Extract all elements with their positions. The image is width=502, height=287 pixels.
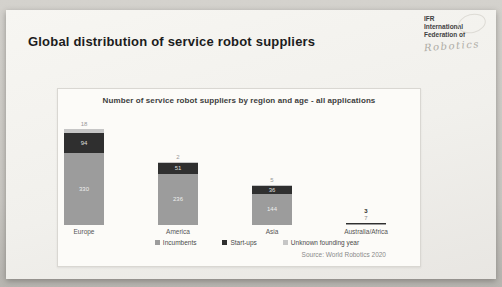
bar-value-incumbents-asia: 144 — [267, 206, 277, 212]
scanned-page: Global distribution of service robot sup… — [0, 0, 502, 287]
source-note: Source: World Robotics 2020 — [58, 251, 420, 258]
legend-item-start-ups: Start-ups — [222, 239, 256, 246]
ifr-logo: IFR International Federation of Robotics — [424, 15, 486, 51]
bar-value-start-ups-europe: 94 — [81, 140, 88, 146]
bar-europe: 94330 — [64, 129, 104, 225]
bar-value-incumbents-america: 236 — [173, 196, 183, 202]
x-label-asia: Asia — [225, 228, 319, 235]
bar-segment-incumbents-europe: 330 — [64, 153, 104, 225]
bar-segment-start-ups-america: 51 — [158, 163, 198, 174]
plot-column-europe: 1894330 — [37, 121, 131, 225]
bar-america: 51236 — [158, 162, 198, 225]
slide: Global distribution of service robot sup… — [6, 10, 496, 279]
page-title: Global distribution of service robot sup… — [28, 34, 315, 49]
bar-value-unknown-founding-year-america: 2 — [176, 154, 179, 161]
legend-label-start-ups: Start-ups — [230, 239, 256, 246]
above-labels-america: 2 — [176, 154, 179, 161]
chart-title: Number of service robot suppliers by reg… — [58, 96, 420, 105]
above-labels-europe: 18 — [81, 121, 88, 128]
legend-swatch-incumbents — [155, 240, 160, 245]
legend-label-incumbents: Incumbents — [163, 239, 197, 246]
bar-segment-start-ups-europe: 94 — [64, 133, 104, 153]
bar-value-incumbents-australia-africa: 7 — [364, 215, 367, 222]
bar-segment-start-ups-asia: 36 — [252, 186, 292, 194]
bar-value-start-ups-america: 51 — [175, 165, 182, 171]
x-axis-labels: EuropeAmericaAsiaAustralia/Africa — [37, 228, 413, 235]
chart-legend: IncumbentsStart-upsUnknown founding year — [58, 239, 420, 246]
legend-swatch-unknown-founding-year — [283, 240, 288, 245]
logo-script-robotics: Robotics — [424, 38, 487, 53]
bar-value-start-ups-asia: 36 — [269, 187, 276, 193]
x-label-europe: Europe — [37, 228, 131, 235]
bar-segment-incumbents-america: 236 — [158, 174, 198, 225]
plot-area: 189433025123653614437 — [37, 107, 413, 225]
chart-panel: Number of service robot suppliers by reg… — [57, 88, 421, 267]
plot-column-australia-africa: 37 — [319, 208, 413, 225]
bar-value-unknown-founding-year-asia: 5 — [270, 177, 273, 184]
x-label-australia-africa: Australia/Africa — [319, 228, 413, 235]
plot-column-asia: 536144 — [225, 177, 319, 225]
plot-column-america: 251236 — [131, 154, 225, 225]
legend-swatch-start-ups — [222, 240, 227, 245]
legend-item-unknown-founding-year: Unknown founding year — [283, 239, 359, 246]
bar-value-unknown-founding-year-europe: 18 — [81, 121, 88, 128]
bar-segment-incumbents-australia-africa — [346, 224, 386, 226]
bar-asia: 36144 — [252, 185, 292, 225]
bar-value-start-ups-australia-africa: 3 — [364, 208, 367, 215]
bar-australia-africa — [346, 223, 386, 225]
above-labels-australia-africa: 37 — [364, 208, 367, 222]
above-labels-asia: 5 — [270, 177, 273, 184]
bar-segment-incumbents-asia: 144 — [252, 194, 292, 225]
legend-item-incumbents: Incumbents — [155, 239, 197, 246]
bar-value-incumbents-europe: 330 — [79, 186, 89, 192]
x-label-america: America — [131, 228, 225, 235]
legend-label-unknown-founding-year: Unknown founding year — [291, 239, 359, 246]
